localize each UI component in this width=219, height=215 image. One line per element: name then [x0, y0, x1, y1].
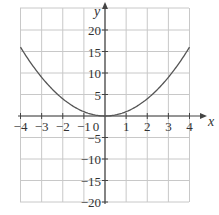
x-axis-label: x	[207, 114, 215, 129]
x-tick-label: 4	[186, 119, 193, 134]
y-tick-label: −10	[81, 152, 101, 167]
x-tick-label: 2	[144, 119, 151, 134]
x-tick-label: 1	[123, 119, 130, 134]
y-tick-label: −5	[87, 131, 101, 146]
y-tick-label: −20	[81, 195, 101, 210]
x-axis-arrow-icon	[200, 113, 207, 119]
y-tick-label: 5	[95, 88, 102, 103]
y-axis-arrow-icon	[102, 2, 108, 9]
y-tick-label: 10	[88, 66, 101, 81]
y-tick-label: 15	[88, 45, 101, 60]
y-axis-label: y	[92, 4, 101, 19]
x-tick-label: −2	[56, 119, 70, 134]
parabola-chart: xy−4−3−2−1012342015105−5−10−15−20	[0, 0, 219, 215]
x-tick-label: −3	[35, 119, 49, 134]
y-tick-label: 20	[88, 23, 101, 38]
x-tick-label: 3	[165, 119, 172, 134]
y-tick-label: −15	[81, 174, 101, 189]
x-tick-label: −4	[14, 119, 28, 134]
